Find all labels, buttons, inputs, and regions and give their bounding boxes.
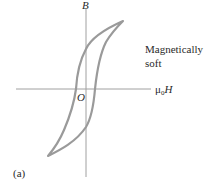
b-axis-label: B (82, 0, 89, 11)
h-symbol: H (164, 83, 172, 95)
material-annotation: Magnetically soft (145, 42, 207, 70)
annotation-line-2: soft (145, 56, 207, 70)
hysteresis-figure: B μ0H O Magnetically soft (a) (0, 0, 208, 185)
panel-label: (a) (13, 167, 25, 179)
origin-label: O (77, 91, 85, 103)
hysteresis-plot (0, 0, 208, 185)
mu0h-axis-label: μ0H (155, 83, 172, 99)
annotation-line-1: Magnetically (145, 42, 207, 56)
